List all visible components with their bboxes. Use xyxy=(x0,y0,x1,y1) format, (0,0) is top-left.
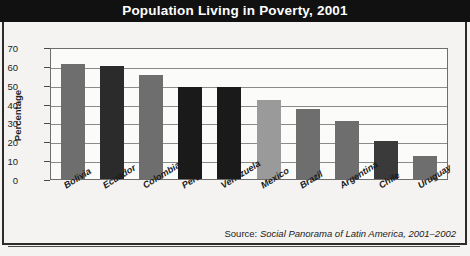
y-axis-tick-label: 10 xyxy=(0,156,18,167)
y-axis-tick-label: 70 xyxy=(0,43,18,54)
y-axis-tick-label: 0 xyxy=(0,175,18,186)
plot-wrapper: Percentage 706050403020100 BoliviaEcuado… xyxy=(0,22,470,256)
source-title: Social Panorama of Latin America, 2001–2… xyxy=(260,228,456,239)
chart-title-bar: Population Living in Poverty, 2001 xyxy=(0,0,470,22)
bar-venezuela xyxy=(217,87,241,179)
bar-brazil xyxy=(296,109,320,179)
y-axis-tick xyxy=(44,180,50,181)
source-note: Source: Social Panorama of Latin America… xyxy=(0,228,456,239)
x-axis-tick-labels: BoliviaEcuadorColombiaPeruVenezuelaMexic… xyxy=(50,182,448,228)
bar-ecuador xyxy=(100,66,124,179)
y-axis-tick-label: 50 xyxy=(0,80,18,91)
chart-figure: Population Living in Poverty, 2001 Perce… xyxy=(0,0,470,256)
source-divider xyxy=(8,246,460,247)
bar-series xyxy=(51,49,447,179)
y-axis-tick-label: 30 xyxy=(0,118,18,129)
bar-colombia xyxy=(139,75,163,179)
y-axis-tick-label: 40 xyxy=(0,99,18,110)
y-axis-tick-label: 20 xyxy=(0,137,18,148)
bar-peru xyxy=(178,87,202,179)
y-axis-tick-label: 60 xyxy=(0,61,18,72)
chart-title: Population Living in Poverty, 2001 xyxy=(0,0,470,22)
bar-bolivia xyxy=(61,64,85,179)
source-label: Source: xyxy=(225,228,258,239)
plot-area xyxy=(50,48,448,180)
